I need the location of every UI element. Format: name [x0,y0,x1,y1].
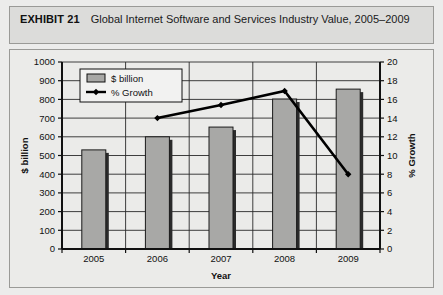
y2-tick-label: 10 [387,150,398,161]
legend-label-bar: $ billion [111,73,143,84]
chart-legend: $ billion% Growth [80,69,182,102]
bar-rect [82,150,106,249]
chart-frame: 1000900800700600500400300200100020181614… [9,49,434,288]
y2-tick-label: 14 [387,113,398,124]
y2-tick-label: 18 [387,75,398,86]
y2-tick-label: 8 [387,169,392,180]
exhibit-number-label: EXHIBIT 21 [20,13,80,26]
y-axis-title: $ billion [19,137,30,173]
exhibit-header: EXHIBIT 21 Global Internet Software and … [9,6,434,44]
y-tick-label: 300 [39,187,55,198]
y-tick-label: 900 [39,75,55,86]
x-tick-label: 2009 [338,253,359,264]
y2-axis-title: % Growth [406,133,417,178]
exhibit-page: EXHIBIT 21 Global Internet Software and … [0,0,443,295]
y-tick-label: 600 [39,131,55,142]
x-tick-label: 2005 [83,253,104,264]
y2-tick-label: 2 [387,225,392,236]
legend-label-line: % Growth [111,87,153,98]
bar-2005 [82,150,109,249]
y2-tick-label: 12 [387,131,398,142]
x-tick-label: 2006 [147,253,168,264]
bar-2009 [336,89,363,249]
y-tick-label: 400 [39,169,55,180]
legend-swatch-bar [87,74,105,82]
y2-tick-label: 4 [387,206,392,217]
bar-rect [273,99,297,249]
y-tick-label: 500 [39,150,55,161]
bar-2006 [145,137,172,249]
y2-tick-label: 6 [387,187,392,198]
bar-rect [145,137,169,249]
y2-tick-label: 16 [387,94,398,105]
y-tick-label: 100 [39,225,55,236]
y-tick-label: 0 [50,243,55,254]
x-tick-label: 2007 [210,253,231,264]
y-tick-label: 800 [39,94,55,105]
combo-chart: 1000900800700600500400300200100020181614… [10,50,433,287]
y-tick-label: 700 [39,113,55,124]
x-axis-title: Year [211,270,231,281]
exhibit-title: Global Internet Software and Services In… [91,13,410,27]
y2-tick-label: 20 [387,56,398,67]
bar-2007 [209,127,236,249]
bar-rect [209,127,233,249]
chart-plot-area: 1000900800700600500400300200100020181614… [10,50,433,287]
x-tick-label: 2008 [274,253,295,264]
y2-tick-label: 0 [387,243,392,254]
bar-rect [336,89,360,249]
y-tick-label: 200 [39,206,55,217]
y-tick-label: 1000 [34,56,55,67]
bar-2008 [273,99,300,249]
